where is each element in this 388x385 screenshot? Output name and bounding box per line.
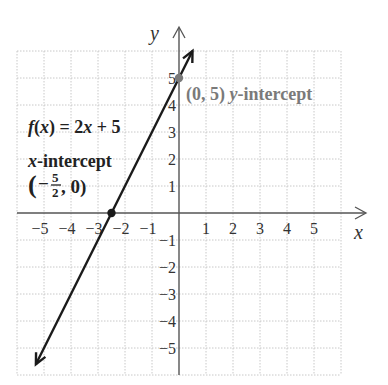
- y-intercept-label: (0, 5) y-intercept: [186, 84, 312, 105]
- x-intercept-point: [107, 209, 115, 217]
- x-intercept-tail: , 0): [61, 176, 86, 198]
- function-label-x: x: [39, 117, 49, 137]
- x-tick-label: 3: [256, 220, 264, 237]
- y-intercept-coords: (0, 5): [186, 84, 230, 105]
- x-tick-label: −1: [139, 220, 156, 237]
- function-label: f(x) = 2x + 5: [28, 117, 121, 138]
- function-label-x2: x: [82, 117, 92, 137]
- x-intercept-text: -intercept: [37, 151, 112, 171]
- y-tick-label: −5: [159, 340, 176, 357]
- x-intercept-minus: −: [38, 173, 49, 194]
- function-label-tail: + 5: [92, 117, 120, 137]
- coordinate-plane: −5−4−3−2−11234554321−1−2−3−4−5 y x f(x) …: [0, 0, 388, 385]
- x-intercept-denominator: 2: [52, 185, 59, 200]
- y-tick-label: −2: [159, 259, 176, 276]
- y-intercept-point: [175, 74, 183, 82]
- x-tick-label: −5: [31, 220, 48, 237]
- y-tick-label: 3: [168, 124, 176, 141]
- x-tick-label: −4: [58, 220, 75, 237]
- y-tick-label: −1: [159, 232, 176, 249]
- x-tick-label: 4: [283, 220, 291, 237]
- x-intercept-open-paren: (: [28, 170, 37, 199]
- x-tick-label: −2: [112, 220, 129, 237]
- y-tick-label: 2: [168, 151, 176, 168]
- x-intercept-coords: ( − 5 2 , 0): [28, 170, 86, 200]
- x-intercept-numerator: 5: [52, 170, 59, 185]
- y-tick-label: −4: [159, 313, 176, 330]
- x-axis-label: x: [353, 221, 363, 243]
- x-intercept-label: x-intercept: [27, 151, 112, 171]
- y-intercept-text: -intercept: [238, 84, 313, 104]
- x-tick-label: 1: [202, 220, 210, 237]
- x-tick-label: 2: [229, 220, 237, 237]
- y-tick-label: 1: [168, 178, 176, 195]
- function-label-rest: ) = 2: [49, 117, 83, 138]
- y-tick-label: −3: [159, 286, 176, 303]
- x-tick-label: 5: [310, 220, 318, 237]
- x-intercept-x: x: [27, 151, 37, 171]
- y-axis-label: y: [148, 22, 159, 45]
